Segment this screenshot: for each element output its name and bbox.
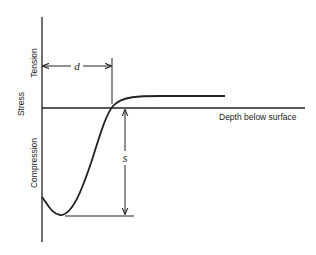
- x-axis-label: Depth below surface: [219, 112, 297, 122]
- compression-label: Compression: [29, 138, 39, 188]
- depth-symbol-d: d: [74, 60, 80, 72]
- tension-label: Tension: [29, 48, 39, 78]
- y-axis-label: Stress: [16, 92, 26, 116]
- stress-symbol-s: s: [123, 151, 128, 165]
- stress-depth-diagram: d s Depth below surface Stress Tension C…: [0, 0, 316, 255]
- stress-curve: [42, 96, 225, 215]
